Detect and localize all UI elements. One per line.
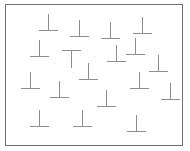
shape-crossbar <box>21 88 40 89</box>
shape-crossbar <box>161 99 180 100</box>
distractor-12 <box>130 72 149 89</box>
shape-stem <box>106 90 107 107</box>
distractor-13 <box>161 83 180 100</box>
shape-crossbar <box>70 36 89 37</box>
shape-stem <box>71 50 72 68</box>
shape-stem <box>139 72 140 89</box>
shape-stem <box>170 83 171 100</box>
shape-crossbar <box>101 38 120 39</box>
distractor-15 <box>30 110 49 127</box>
shape-stem <box>79 20 80 37</box>
distractor-9 <box>79 63 98 80</box>
shape-crossbar <box>130 88 149 89</box>
distractor-14 <box>97 90 116 107</box>
shape-crossbar <box>126 54 145 55</box>
distractor-7 <box>126 38 145 55</box>
distractor-2 <box>70 20 89 37</box>
shape-stem <box>135 38 136 55</box>
shape-stem <box>142 17 143 34</box>
shape-crossbar <box>73 126 92 127</box>
distractor-10 <box>21 72 40 89</box>
distractor-4 <box>133 17 152 34</box>
distractor-3 <box>101 22 120 39</box>
stimulus-canvas <box>0 0 190 151</box>
distractor-6 <box>107 45 126 62</box>
shape-crossbar <box>97 106 116 107</box>
shape-stem <box>110 22 111 39</box>
distractor-11 <box>50 81 69 98</box>
shape-stem <box>88 63 89 80</box>
distractor-16 <box>73 110 92 127</box>
distractor-5 <box>30 40 49 57</box>
shape-crossbar <box>107 61 126 62</box>
shape-stem <box>48 14 49 31</box>
shape-crossbar <box>39 30 58 31</box>
shape-crossbar <box>127 131 146 132</box>
shape-crossbar <box>62 50 81 51</box>
shape-crossbar <box>30 56 49 57</box>
distractor-1 <box>39 14 58 31</box>
shape-stem <box>82 110 83 127</box>
shape-stem <box>59 81 60 98</box>
distractor-8 <box>149 55 168 72</box>
shape-stem <box>30 72 31 89</box>
shape-crossbar <box>133 33 152 34</box>
shape-crossbar <box>79 79 98 80</box>
search-display-frame <box>5 4 183 146</box>
shape-stem <box>39 110 40 127</box>
shape-stem <box>39 40 40 57</box>
shape-crossbar <box>149 71 168 72</box>
distractor-17 <box>127 115 146 132</box>
shape-stem <box>116 45 117 62</box>
shape-stem <box>136 115 137 132</box>
shape-stem <box>158 55 159 72</box>
shape-crossbar <box>50 97 69 98</box>
shape-crossbar <box>30 126 49 127</box>
